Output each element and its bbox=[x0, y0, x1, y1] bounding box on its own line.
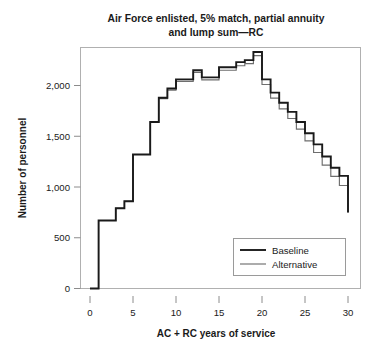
y-tick-label-0: 0 bbox=[65, 283, 70, 294]
x-tick-label-30: 30 bbox=[343, 307, 354, 318]
x-tick-label-25: 25 bbox=[300, 307, 311, 318]
x-tick-label-20: 20 bbox=[257, 307, 268, 318]
chart-title-line-1: Air Force enlisted, 5% match, partial an… bbox=[108, 13, 325, 24]
x-tick-label-0: 0 bbox=[87, 307, 92, 318]
personnel-step-chart: Air Force enlisted, 5% match, partial an… bbox=[0, 0, 381, 354]
legend-label-alternative: Alternative bbox=[272, 259, 317, 270]
chart-background bbox=[0, 0, 381, 354]
y-tick-label-2000: 2,000 bbox=[46, 80, 70, 91]
y-tick-label-1500: 1,500 bbox=[46, 131, 70, 142]
y-tick-label-500: 500 bbox=[54, 232, 70, 243]
y-tick-label-1000: 1,000 bbox=[46, 182, 70, 193]
x-axis-title: AC + RC years of service bbox=[157, 328, 276, 339]
chart-title-line-2: and lump sum—RC bbox=[169, 27, 265, 38]
x-tick-label-10: 10 bbox=[171, 307, 182, 318]
x-tick-label-5: 5 bbox=[130, 307, 135, 318]
chart-legend: Baseline Alternative bbox=[234, 239, 346, 276]
legend-label-baseline: Baseline bbox=[272, 245, 309, 256]
x-tick-label-15: 15 bbox=[214, 307, 225, 318]
y-axis-title: Number of personnel bbox=[17, 118, 28, 219]
